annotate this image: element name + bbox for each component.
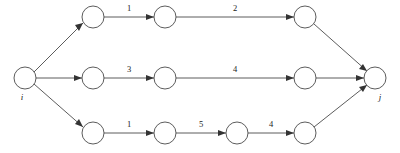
edge-label-middle-2: 4 <box>233 64 238 74</box>
node-b2[interactable] <box>154 122 176 144</box>
edge-label-middle-1: 3 <box>127 64 131 74</box>
node-label-source-i: i <box>21 92 24 102</box>
node-m3[interactable] <box>294 67 316 89</box>
arrowhead-t2 <box>146 14 154 20</box>
node-label-sink-j: j <box>378 92 382 102</box>
arrowhead-b1 <box>75 119 83 127</box>
node-t1[interactable] <box>82 6 104 28</box>
arrowhead-b2 <box>146 130 154 136</box>
node-source-i[interactable] <box>14 67 36 89</box>
edge-label-bottom-2: 5 <box>199 119 203 129</box>
node-sink-j[interactable] <box>364 67 386 89</box>
edge-label-bottom-3: 4 <box>269 119 274 129</box>
arrowhead-m1 <box>74 75 82 81</box>
arrowhead-m2 <box>146 75 154 81</box>
node-m2[interactable] <box>154 67 176 89</box>
graph-svg: 1 2 3 4 1 5 4 i j <box>0 0 400 153</box>
edge-b4-to-j <box>314 85 367 127</box>
node-b4[interactable] <box>294 122 316 144</box>
node-label-layer: i j <box>21 92 382 102</box>
edge-label-top-1: 1 <box>127 3 131 13</box>
edge-label-top-2: 2 <box>233 3 237 13</box>
node-t2[interactable] <box>154 6 176 28</box>
edge-label-bottom-1: 1 <box>127 119 131 129</box>
diagram-canvas: 1 2 3 4 1 5 4 i j <box>0 0 400 153</box>
edge-i-to-t1 <box>34 23 83 72</box>
arrowhead-t3 <box>286 14 294 20</box>
arrowhead-m3 <box>286 75 294 81</box>
node-b3[interactable] <box>226 122 248 144</box>
node-b1[interactable] <box>82 122 104 144</box>
edge-i-to-b1 <box>34 84 83 127</box>
node-m1[interactable] <box>82 67 104 89</box>
edge-label-layer: 1 2 3 4 1 5 4 <box>127 3 274 129</box>
arrowhead-j-middle <box>356 75 364 81</box>
node-t3[interactable] <box>294 6 316 28</box>
edge-t3-to-j <box>314 24 367 71</box>
arrowhead-b3 <box>218 130 226 136</box>
arrowhead-b4 <box>286 130 294 136</box>
